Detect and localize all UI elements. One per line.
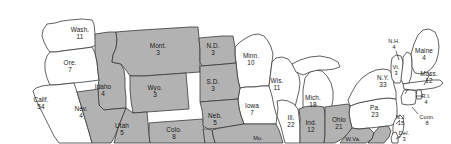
state-shape-southdakota xyxy=(200,63,240,102)
state-shape-delaware xyxy=(391,132,398,143)
state-shape-montana xyxy=(112,27,200,76)
state-shape-colorado xyxy=(149,119,205,143)
state-shape-maine xyxy=(411,29,439,74)
state-shape-nebraska xyxy=(200,99,244,129)
state-shape-washington xyxy=(42,19,96,52)
electoral-college-map: Wash.11Ore.7Calif.54Nev.4Idaho4Mont.3Wyo… xyxy=(0,0,451,144)
state-shape-connecticut xyxy=(401,90,416,105)
us-map-graphic xyxy=(0,0,451,144)
state-shape-wyoming xyxy=(130,73,189,113)
state-shape-oregon xyxy=(45,47,99,85)
state-shape-minnesota xyxy=(235,34,273,88)
state-shape-newhampshire xyxy=(401,52,412,84)
state-shape-indiana xyxy=(299,106,325,143)
state-shape-rhodeisland xyxy=(416,90,422,99)
state-shape-northdakota xyxy=(199,36,236,66)
